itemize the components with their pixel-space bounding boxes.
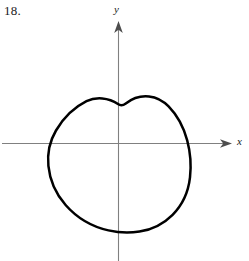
x-axis-label: x <box>237 136 242 147</box>
polar-curve-figure <box>0 0 249 261</box>
curve-group <box>48 96 191 232</box>
limacon-curve <box>48 96 191 232</box>
figure-container: 18. y x <box>0 0 249 261</box>
y-axis-label: y <box>114 4 119 15</box>
exercise-number-label: 18. <box>4 3 21 18</box>
axes-group <box>2 21 232 261</box>
